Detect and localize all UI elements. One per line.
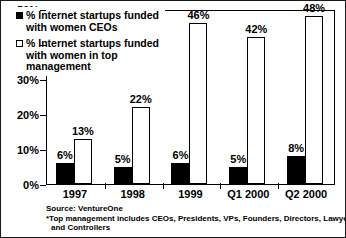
y-axis-tick-label: 20%: [17, 110, 39, 121]
x-axis-category-label: Q1 2000: [219, 189, 277, 200]
y-axis-tick-mark: [40, 115, 46, 116]
bar-value-label: 48%: [299, 3, 329, 14]
bar-women-ceos: [171, 163, 189, 184]
bar-group: 6%46%: [163, 11, 221, 184]
chart-legend: % Internet startups fundedwith women CEO…: [13, 7, 165, 76]
y-axis-tick-label: 30%: [17, 75, 39, 86]
legend-entry: % Internet startups fundedwith women in …: [16, 38, 162, 73]
legend-entry: % Internet startups fundedwith women CEO…: [16, 10, 162, 33]
bar-women-top-management: [74, 139, 92, 185]
x-axis-category-label: 1999: [162, 189, 220, 200]
bar-women-ceos: [56, 163, 74, 184]
x-axis-category-labels: 199719981999Q1 2000Q2 2000: [46, 189, 335, 203]
source-note: Source: VentureOne: [46, 204, 342, 214]
legend-label-line: % Internet startups funded: [26, 38, 159, 50]
y-axis-tick-mark: [40, 185, 46, 186]
bar-women-ceos: [229, 167, 247, 185]
bar-women-top-management: [189, 23, 207, 184]
legend-swatch-outline-icon: [16, 40, 23, 47]
bar-women-top-management: [305, 16, 323, 184]
x-axis-category-label: 1998: [104, 189, 162, 200]
y-axis-tick-label: 10%: [17, 145, 39, 156]
x-axis-category-label: Q2 2000: [277, 189, 335, 200]
legend-swatch-filled-icon: [16, 12, 23, 19]
legend-label-line: % Internet startups funded: [26, 10, 159, 22]
y-axis-tick-mark: [40, 45, 46, 46]
bar-value-label: 13%: [68, 126, 98, 137]
bar-group: 8%48%: [278, 11, 336, 184]
footnote-line-2: and Controllers: [46, 223, 342, 233]
bar-group: 5%42%: [220, 11, 278, 184]
bar-women-ceos: [114, 167, 132, 185]
legend-label-line: management: [26, 61, 159, 73]
bar-value-label: 42%: [241, 24, 271, 35]
x-axis-category-label: 1997: [46, 189, 104, 200]
legend-entry-label: % Internet startups fundedwith women in …: [26, 38, 159, 73]
y-axis-tick-mark: [40, 150, 46, 151]
bar-value-label: 22%: [126, 94, 156, 105]
legend-label-line: with women CEOs: [26, 22, 159, 34]
footnote-line-1: *Top management includes CEOs, President…: [46, 214, 342, 224]
bar-value-label: 46%: [183, 10, 213, 21]
y-axis-tick-label: 0%: [23, 180, 39, 191]
bar-women-top-management: [247, 37, 265, 184]
y-axis-tick-mark: [40, 80, 46, 81]
legend-entry-label: % Internet startups fundedwith women CEO…: [26, 10, 159, 33]
chart-footnotes: Source: VentureOne *Top management inclu…: [46, 204, 342, 233]
chart-figure: 0%10%20%30%40%50% 6%13%5%22%6%46%5%42%8%…: [0, 0, 346, 238]
bar-women-top-management: [132, 107, 150, 184]
y-axis-tick-mark: [40, 10, 46, 11]
bar-women-ceos: [287, 156, 305, 184]
